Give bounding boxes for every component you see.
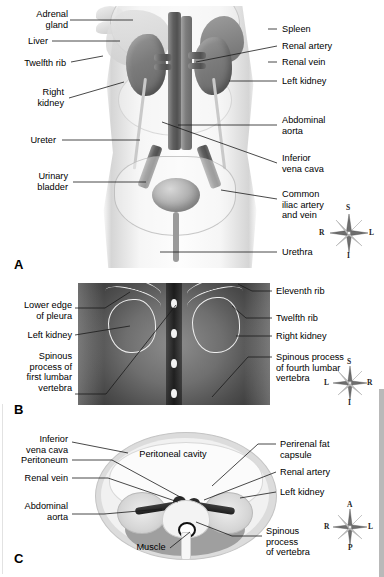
page-edge-line-left [2,404,3,574]
label-muscle: Muscle [123,542,179,553]
label-twelfth-rib-b: Twelfth rib [276,313,382,324]
label-renal-vein: Renal vein [282,57,382,68]
panel-c: Inferior vena cava Peritoneum Renal vein… [0,420,384,577]
compass-label-right: L [369,228,374,237]
compass-rose-c: A P R L [326,502,374,552]
label-spleen: Spleen [282,24,382,35]
label-left-kidney-b: Left kidney [0,330,72,341]
label-inferior-vena-cava-c: Inferior vena cava [0,434,68,455]
label-perirenal-fat-capsule: Perirenal fat capsule [280,439,384,460]
flank-highlight-left [78,283,104,405]
compass-label-left: R [319,228,324,237]
label-peritoneum: Peritoneum [0,455,68,466]
spinous-process-marker [171,299,177,308]
abdominal-aorta-shape [181,16,192,150]
compass-label-left: L [324,378,329,387]
inferior-vena-cava-shape [168,12,181,150]
urinary-bladder-shape [152,178,200,212]
panel-a-illustration [96,6,264,268]
compass-label-right: R [367,378,372,387]
compass-label-bottom: I [347,251,350,260]
label-twelfth-rib: Twelfth rib [0,58,66,69]
urethra-shape [173,212,179,262]
compass-label-left: R [324,522,329,531]
label-lower-edge-of-pleura: Lower edge of pleura [0,300,72,321]
label-right-kidney-b: Right kidney [276,331,382,342]
panel-letter-c: C [14,551,23,566]
compass-rose-b: S I L R [327,360,373,406]
renal-vessel-right [154,54,172,61]
renal-vessel-left [188,52,206,59]
label-peritoneal-cavity: Peritoneal cavity [118,449,228,460]
spinous-process-marker [171,389,177,398]
label-renal-artery: Renal artery [282,41,382,52]
spinous-process-shape [181,532,191,560]
panel-letter-a: A [14,257,23,272]
compass-label-top: A [347,500,352,509]
panel-b-radiograph [78,283,270,405]
compass-label-top: S [347,357,351,366]
panel-a: Adrenal gland Liver Twelfth rib Right ki… [0,0,384,278]
label-urinary-bladder: Urinary bladder [6,171,68,192]
label-left-kidney: Left kidney [282,76,382,87]
compass-label-bottom: P [348,543,353,552]
compass-label-right: L [368,522,373,531]
label-spinous-first-lumbar: Spinous process of first lumbar vertebra [0,351,72,393]
compass-rose-a: S I R L [322,206,376,260]
spinous-process-marker [171,329,177,338]
label-adrenal-gland: Adrenal gland [6,9,68,30]
label-ureter: Ureter [6,135,56,146]
renal-vessel-right-2 [154,64,172,70]
renal-vessel-left-2 [188,63,206,69]
anatomy-figure: Adrenal gland Liver Twelfth rib Right ki… [0,0,384,577]
label-right-kidney: Right kidney [6,87,64,108]
label-renal-artery-c: Renal artery [280,467,384,478]
label-inferior-vena-cava: Inferior vena cava [282,153,382,174]
flank-highlight-right [244,283,270,405]
label-abdominal-aorta-c: Abdominal aorta [0,501,68,522]
spinous-process-marker [171,359,177,368]
label-left-kidney-c: Left kidney [280,487,384,498]
compass-label-bottom: I [348,398,351,407]
panel-letter-b: B [14,402,23,417]
label-abdominal-aorta: Abdominal aorta [282,115,382,136]
panel-b: Lower edge of pleura Left kidney Spinous… [0,278,384,420]
label-renal-vein-c: Renal vein [0,473,68,484]
label-liver: Liver [6,36,48,47]
compass-label-top: S [346,203,350,212]
label-eleventh-rib: Eleventh rib [276,286,382,297]
page-edge-bar-right [379,389,384,577]
